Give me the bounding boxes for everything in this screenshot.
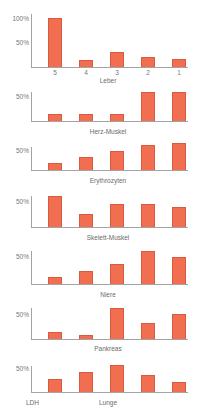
bar: [79, 372, 93, 392]
bar: [172, 314, 186, 339]
bar: [172, 59, 186, 67]
x-axis-line: [31, 284, 188, 285]
bar: [141, 375, 155, 392]
bar: [141, 145, 155, 170]
bar: [48, 18, 62, 67]
panel-title: Leber: [58, 77, 158, 85]
bar: [172, 382, 186, 392]
bar: [48, 332, 62, 339]
bar: [110, 151, 124, 170]
bar: [48, 196, 62, 227]
bar: [79, 214, 93, 227]
bar: [79, 60, 93, 67]
chart-panel-skelett-muskel: 50%: [0, 196, 200, 228]
x-axis-line: [31, 339, 188, 340]
y-tick-label: 50%: [0, 147, 29, 155]
y-axis-line: [31, 366, 32, 393]
y-tick-label: 50%: [0, 365, 29, 373]
y-axis-line: [31, 308, 32, 340]
x-tick-label: 2: [143, 69, 153, 77]
chart-panel-niere: 50%: [0, 251, 200, 285]
bar: [141, 57, 155, 67]
y-axis-line: [31, 196, 32, 228]
x-axis-line: [31, 121, 188, 122]
y-tick-label: 100%: [0, 15, 29, 23]
panel-title: Niere: [58, 291, 158, 299]
x-tick-label: 1: [174, 69, 184, 77]
chart-panel-pankreas: 50%: [0, 308, 200, 340]
x-tick-label: 3: [112, 69, 122, 77]
bar: [48, 379, 62, 392]
figure-footer-label: LDH: [26, 399, 39, 407]
y-tick-label: 50%: [0, 253, 29, 261]
bar: [141, 92, 155, 121]
bar: [79, 335, 93, 339]
bar: [141, 323, 155, 339]
ldh-isoenzyme-figure: 100% 50% 5 4 3 2 1 Leber 50% Herz-Muskel…: [0, 0, 200, 411]
bar: [48, 114, 62, 121]
chart-panel-herz-muskel: 50%: [0, 92, 200, 122]
panel-title: Skelett-Muskel: [58, 234, 158, 242]
panel-title: Lunge: [58, 399, 158, 407]
panel-title: Herz-Muskel: [58, 128, 158, 136]
y-tick-label: 50%: [0, 39, 29, 47]
y-tick-label: 50%: [0, 93, 29, 101]
y-tick-label: 50%: [0, 311, 29, 319]
bar: [110, 365, 124, 392]
panel-title: Erythrozyten: [58, 177, 158, 185]
bar: [141, 251, 155, 284]
bar: [48, 163, 62, 170]
bar: [110, 308, 124, 339]
chart-panel-erythrozyten: 50%: [0, 147, 200, 171]
bar: [110, 264, 124, 284]
bar: [79, 271, 93, 284]
x-axis-line: [31, 392, 188, 393]
y-tick-label: 50%: [0, 198, 29, 206]
x-tick-label: 5: [50, 69, 60, 77]
bar: [110, 114, 124, 121]
bar: [79, 157, 93, 170]
bar: [110, 52, 124, 67]
x-axis-line: [31, 227, 188, 228]
y-axis-line: [31, 251, 32, 285]
chart-panel-leber: 100% 50%: [0, 14, 200, 68]
x-tick-label: 4: [81, 69, 91, 77]
bar: [141, 204, 155, 227]
x-axis-line: [31, 170, 188, 171]
y-axis-line: [31, 147, 32, 171]
bar: [172, 92, 186, 121]
bar: [110, 204, 124, 227]
y-axis-line: [31, 14, 32, 68]
bar: [172, 257, 186, 284]
bar: [172, 143, 186, 170]
bar: [79, 114, 93, 121]
panel-title: Pankreas: [58, 345, 158, 353]
chart-panel-lunge: 50%: [0, 366, 200, 393]
bar: [48, 277, 62, 284]
bar: [172, 207, 186, 227]
x-axis-line: [31, 67, 188, 68]
y-axis-line: [31, 92, 32, 122]
